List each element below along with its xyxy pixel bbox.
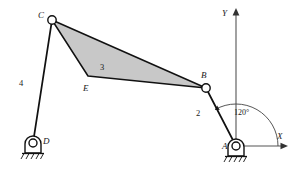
x-axis-arrowhead — [281, 143, 289, 149]
link-4-line — [33, 20, 52, 143]
link-2-number-label: 2 — [196, 108, 200, 118]
vertex-e-label: E — [82, 83, 89, 93]
joint-c-pin — [48, 16, 56, 24]
link-4-group: 4 — [19, 20, 52, 143]
link-2-group: 2 — [196, 88, 236, 146]
y-axis-arrowhead — [233, 8, 240, 16]
support-d-hatching — [21, 154, 44, 160]
y-axis-label: Y — [222, 8, 228, 18]
link-2-line — [206, 88, 236, 146]
crank-angle-label: 120° — [234, 108, 249, 117]
joint-b-label: B — [201, 70, 207, 80]
joint-c-label: C — [38, 10, 45, 20]
linkage-diagram-figure: Y X 120° 3 4 2 C — [0, 0, 300, 169]
support-d-pin — [29, 139, 37, 147]
link-3-number-label: 3 — [100, 62, 104, 72]
support-a-pin — [232, 142, 240, 150]
link-3-ternary-body-group: 3 — [52, 20, 206, 88]
joint-a-label: A — [221, 141, 228, 151]
joint-c-group: C — [38, 10, 56, 24]
support-a-hatching — [224, 157, 247, 163]
link-3-body-shape — [52, 20, 206, 88]
linkage-diagram-canvas: Y X 120° 3 4 2 C — [0, 0, 300, 169]
coordinate-axes-group: Y X — [222, 8, 288, 149]
link-4-number-label: 4 — [19, 78, 24, 88]
joint-b-group: B — [201, 70, 210, 92]
support-d-group: D — [21, 136, 50, 159]
joint-d-label: D — [42, 136, 50, 146]
joint-b-pin — [202, 84, 210, 92]
support-a-group: A — [221, 139, 247, 162]
vertex-e-group: E — [82, 83, 89, 93]
